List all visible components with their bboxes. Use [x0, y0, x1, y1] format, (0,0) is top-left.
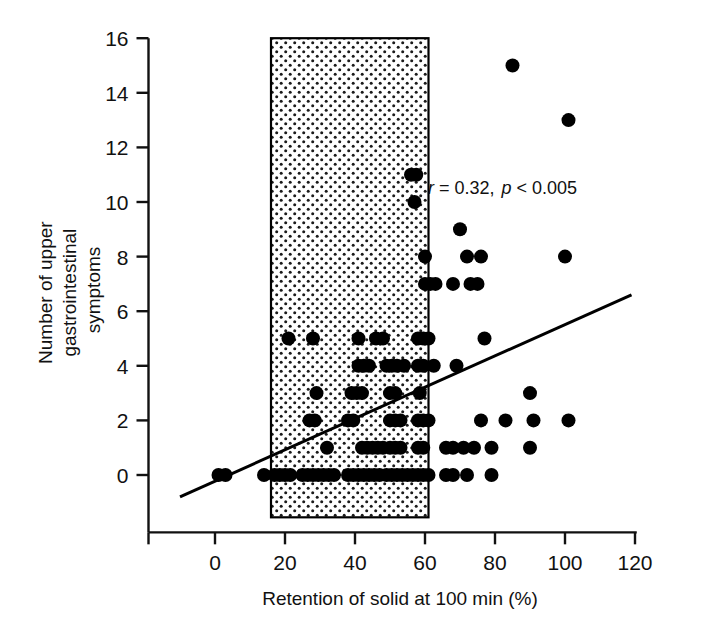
data-point [523, 386, 537, 400]
x-tick-label: 20 [273, 551, 296, 574]
data-point [394, 441, 408, 455]
data-point [320, 441, 334, 455]
data-point [558, 250, 572, 264]
y-axis-tick-labels: 0246810121416 [105, 27, 129, 487]
plot-canvas: 0246810121416 020406080100120 Number of … [0, 0, 705, 632]
data-point [474, 413, 488, 427]
data-point [499, 413, 513, 427]
x-axis-tick-labels: 020406080100120 [209, 551, 652, 574]
y-tick-label: 12 [105, 136, 128, 159]
data-point [416, 441, 430, 455]
x-axis-ticks [149, 532, 636, 544]
data-point [446, 277, 460, 291]
data-point [422, 332, 436, 346]
y-axis-title: Number of upper gastrointestinal symptom… [35, 216, 104, 364]
data-point [427, 359, 441, 373]
data-point [352, 332, 366, 346]
x-tick-label: 0 [209, 551, 221, 574]
data-point [527, 413, 541, 427]
x-tick-label: 60 [413, 551, 436, 574]
data-point [362, 359, 376, 373]
y-tick-label: 0 [117, 464, 129, 487]
data-point [394, 413, 408, 427]
data-point [282, 332, 296, 346]
x-tick-label: 100 [547, 551, 582, 574]
data-point [408, 195, 422, 209]
data-point [450, 359, 464, 373]
data-point [376, 332, 390, 346]
data-point [460, 468, 474, 482]
y-tick-label: 10 [105, 191, 128, 214]
correlation-annotation: r= 0.32,p< 0.005 [428, 178, 577, 198]
data-point [446, 468, 460, 482]
data-point [562, 113, 576, 127]
data-point [283, 468, 297, 482]
data-point [308, 413, 322, 427]
data-point [327, 468, 341, 482]
data-point [478, 332, 492, 346]
data-point [346, 413, 360, 427]
data-point [409, 168, 423, 182]
data-point [306, 332, 320, 346]
y-tick-label: 14 [105, 82, 129, 105]
svg-text:Number of upper gastro: Number of upper gastrointestinal symptom… [35, 216, 104, 364]
y-tick-label: 16 [105, 27, 128, 50]
x-tick-label: 40 [343, 551, 366, 574]
x-tick-label: 80 [483, 551, 506, 574]
data-point [310, 386, 324, 400]
data-point [460, 250, 474, 264]
data-point [418, 250, 432, 264]
x-axis-title: Retention of solid at 100 min (%) [262, 588, 538, 609]
data-point [485, 468, 499, 482]
data-point [523, 441, 537, 455]
data-point [413, 386, 427, 400]
data-point [474, 250, 488, 264]
data-point [467, 441, 481, 455]
y-tick-label: 2 [117, 409, 129, 432]
data-point [471, 277, 485, 291]
x-tick-label: 120 [617, 551, 652, 574]
y-tick-label: 4 [117, 355, 129, 378]
y-axis-ticks [137, 38, 149, 475]
data-point [422, 468, 436, 482]
data-point [397, 359, 411, 373]
data-point [388, 386, 402, 400]
data-point [453, 222, 467, 236]
data-point [219, 468, 233, 482]
data-point [355, 386, 369, 400]
data-point [562, 413, 576, 427]
y-tick-label: 6 [117, 300, 129, 323]
data-point [506, 59, 520, 73]
data-point [485, 441, 499, 455]
y-tick-label: 8 [117, 246, 129, 269]
scatter-plot-figure: 0246810121416 020406080100120 Number of … [0, 0, 705, 632]
data-point [422, 413, 436, 427]
data-point [429, 277, 443, 291]
